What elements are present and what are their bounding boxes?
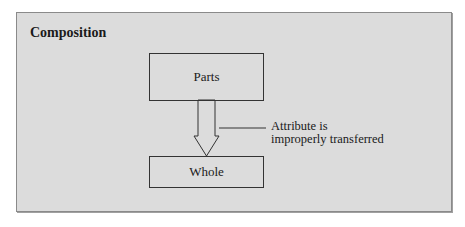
whole-label: Whole [189,164,224,180]
annotation-note: Attribute is improperly transferred [271,120,384,146]
composition-panel: Composition Parts Attribute is improperl… [16,12,452,212]
whole-node: Whole [149,156,264,188]
annotation-line-2: improperly transferred [271,133,384,146]
